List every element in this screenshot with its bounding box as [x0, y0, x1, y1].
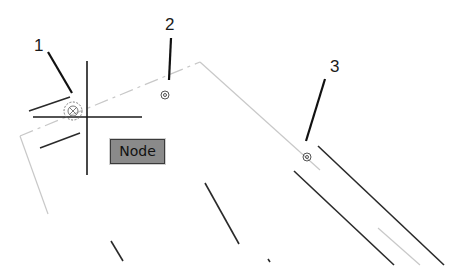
- cad-drawing-canvas[interactable]: 1 2 3 Node: [0, 0, 462, 278]
- callout-number-1: 1: [34, 37, 43, 54]
- callout-leaders: [48, 38, 325, 141]
- drawing-geometry: [0, 0, 462, 278]
- node-marker-icon: [303, 153, 311, 161]
- hidden-outline: [20, 62, 420, 265]
- node-marker-icon: [161, 91, 169, 99]
- geometry-edges: [29, 97, 444, 265]
- snap-tooltip: Node: [110, 139, 165, 164]
- callout-number-3: 3: [330, 58, 339, 75]
- callout-number-2: 2: [165, 16, 174, 33]
